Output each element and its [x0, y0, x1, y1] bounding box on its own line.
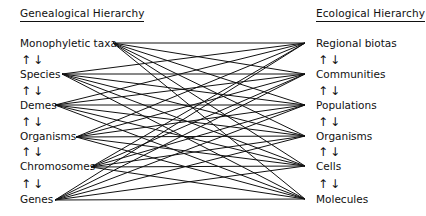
- connection-network: [0, 0, 426, 216]
